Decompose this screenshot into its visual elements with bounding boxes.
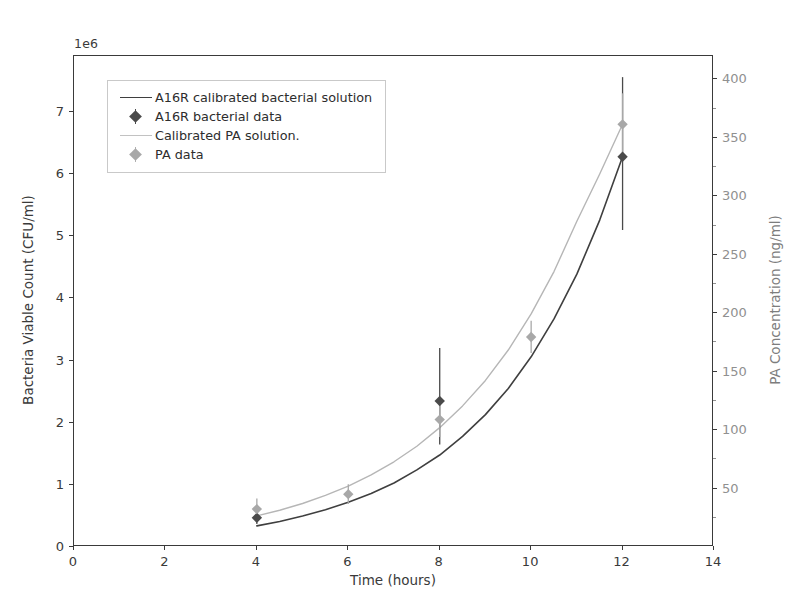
- y-axis-right-tick-label: 200: [722, 305, 747, 320]
- y-axis-right-tick-label: 350: [722, 129, 747, 144]
- legend-label: A16R calibrated bacterial solution: [155, 90, 372, 105]
- y-axis-right-tick-label: 150: [722, 363, 747, 378]
- y-axis-right-tick-label: 300: [722, 188, 747, 203]
- legend-item: A16R calibrated bacterial solution: [117, 88, 376, 107]
- y-axis-right-tickmark: [713, 137, 717, 138]
- legend-item: A16R bacterial data: [117, 107, 376, 126]
- x-axis-tick-label: 4: [252, 554, 260, 569]
- legend-label: PA data: [155, 147, 204, 162]
- y-axis-right-minor-tickmark: [713, 108, 716, 109]
- y-axis-right-minor-tickmark: [713, 400, 716, 401]
- x-axis-tickmark: [622, 546, 623, 550]
- x-axis-tick-label: 6: [343, 554, 351, 569]
- y-axis-right-tick-label: 50: [722, 480, 739, 495]
- y-axis-left-tick-label: 4: [56, 290, 64, 305]
- y-axis-left-tickmark: [69, 484, 73, 485]
- y-axis-right-minor-tickmark: [713, 225, 716, 226]
- y-axis-right-tickmark: [713, 254, 717, 255]
- legend-key-line-icon: [117, 127, 155, 144]
- y-axis-left-tick-label: 5: [56, 228, 64, 243]
- x-axis-tickmark: [256, 546, 257, 550]
- x-axis-tick-label: 12: [613, 554, 630, 569]
- x-axis-tickmark: [530, 546, 531, 550]
- x-axis-tickmark: [164, 546, 165, 550]
- y-axis-right-tick-label: 400: [722, 71, 747, 86]
- legend-label: Calibrated PA solution.: [155, 128, 300, 143]
- series-line: [257, 157, 623, 526]
- y-axis-left-tickmark: [69, 173, 73, 174]
- x-axis-tick-label: 8: [435, 554, 443, 569]
- data-point-diamond: [435, 396, 445, 406]
- y-axis-right-tickmark: [713, 312, 717, 313]
- x-axis-tick-label: 0: [69, 554, 77, 569]
- legend-key-diamond-icon: [117, 108, 155, 125]
- data-point-diamond: [617, 151, 627, 161]
- y-axis-left-tickmark: [69, 422, 73, 423]
- legend-key-line-icon: [117, 89, 155, 106]
- x-axis-tick-label: 2: [160, 554, 168, 569]
- y-axis-right-minor-tickmark: [713, 166, 716, 167]
- data-point-diamond: [526, 332, 536, 342]
- y-axis-left-label: Bacteria Viable Count (CFU/ml): [20, 195, 36, 405]
- chart-legend: A16R calibrated bacterial solution A16R …: [107, 80, 386, 173]
- y-axis-right-minor-tickmark: [713, 283, 716, 284]
- legend-key-diamond-icon: [117, 146, 155, 163]
- y-axis-right-minor-tickmark: [713, 341, 716, 342]
- x-axis-tickmark: [347, 546, 348, 550]
- y-axis-right-tickmark: [713, 429, 717, 430]
- datapoint-group: [252, 119, 628, 523]
- y-axis-left-tick-label: 2: [56, 414, 64, 429]
- x-axis-tickmark: [713, 546, 714, 550]
- y-axis-left-tickmark: [69, 111, 73, 112]
- y-axis-right-minor-tickmark: [713, 517, 716, 518]
- legend-item: PA data: [117, 145, 376, 164]
- y-axis-right-tickmark: [713, 195, 717, 196]
- y-axis-left-tickmark: [69, 360, 73, 361]
- data-point-diamond: [252, 504, 262, 514]
- series-line: [257, 124, 623, 516]
- legend-item: Calibrated PA solution.: [117, 126, 376, 145]
- x-axis-tickmark: [439, 546, 440, 550]
- x-axis-label: Time (hours): [350, 572, 436, 588]
- y-axis-left-tick-label: 3: [56, 352, 64, 367]
- y-axis-left-tick-label: 6: [56, 166, 64, 181]
- y-axis-left-tick-label: 0: [56, 539, 64, 554]
- matplotlib-figure: 1e6 Bacteria Viable Count (CFU/ml) PA Co…: [0, 0, 793, 612]
- y-axis-left-tickmark: [69, 297, 73, 298]
- y-axis-offset-text: 1e6: [74, 36, 98, 51]
- y-axis-right-label: PA Concentration (ng/ml): [767, 215, 783, 385]
- x-axis-tick-label: 14: [705, 554, 722, 569]
- y-axis-right-tickmark: [713, 371, 717, 372]
- y-axis-left-tickmark: [69, 235, 73, 236]
- data-point-diamond: [343, 489, 353, 499]
- x-axis-tickmark: [73, 546, 74, 550]
- y-axis-right-tick-label: 250: [722, 246, 747, 261]
- legend-label: A16R bacterial data: [155, 109, 282, 124]
- y-axis-right-minor-tickmark: [713, 458, 716, 459]
- y-axis-right-tickmark: [713, 78, 717, 79]
- data-point-diamond: [617, 119, 627, 129]
- y-axis-right-tickmark: [713, 488, 717, 489]
- x-axis-tick-label: 10: [522, 554, 539, 569]
- y-axis-left-tick-label: 7: [56, 103, 64, 118]
- y-axis-right-tick-label: 100: [722, 422, 747, 437]
- curve-group: [257, 124, 623, 526]
- y-axis-left-tick-label: 1: [56, 476, 64, 491]
